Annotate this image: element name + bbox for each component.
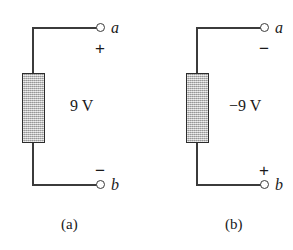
terminal-a-polarity-sign: −: [259, 40, 269, 57]
voltage-source-box: [22, 73, 45, 143]
bottom-horizontal-wire: [32, 184, 97, 186]
terminal-a-node: [96, 23, 105, 32]
panel-a-caption: (a): [61, 217, 78, 232]
circuit-panel-a: a b + − 9 V (a): [0, 0, 146, 250]
bottom-vertical-wire: [196, 143, 198, 186]
circuit-figure: a b + − 9 V (a) a b − + −9 V (b): [0, 0, 293, 250]
bottom-vertical-wire: [32, 143, 34, 186]
terminal-b-label: b: [111, 177, 119, 193]
terminal-b-node: [260, 180, 269, 189]
top-horizontal-wire: [196, 27, 261, 29]
terminal-b-polarity-sign: −: [95, 162, 105, 179]
terminal-b-node: [96, 180, 105, 189]
terminal-b-polarity-sign: +: [259, 162, 269, 179]
terminal-a-polarity-sign: +: [95, 40, 105, 57]
top-horizontal-wire: [32, 27, 97, 29]
panel-b-caption: (b): [225, 217, 243, 232]
terminal-a-label: a: [275, 20, 283, 36]
terminal-a-label: a: [111, 20, 119, 36]
bottom-horizontal-wire: [196, 184, 261, 186]
source-value-label: 9 V: [70, 98, 93, 114]
top-vertical-wire: [196, 27, 198, 74]
terminal-a-node: [260, 23, 269, 32]
top-vertical-wire: [32, 27, 34, 74]
circuit-panel-b: a b − + −9 V (b): [147, 0, 293, 250]
source-value-label: −9 V: [229, 98, 261, 114]
terminal-b-label: b: [275, 177, 283, 193]
voltage-source-box: [186, 73, 209, 143]
